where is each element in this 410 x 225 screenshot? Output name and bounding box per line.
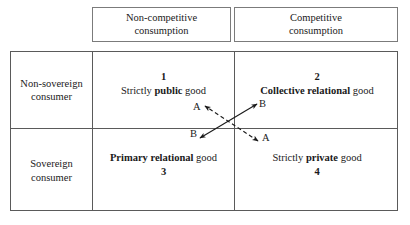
quadrant-3-emphasis: Primary relational [110, 152, 194, 163]
column-header-non-competitive: Non-competitive consumption [92, 7, 231, 42]
arrow-label-a-upper-left: A [193, 102, 201, 113]
row-header-non-sovereign-consumer: Non-sovereign consumer [11, 52, 92, 128]
column-header-competitive-line2: consumption [289, 25, 343, 38]
quadrant-1-suffix: good [182, 85, 206, 96]
arrow-label-a-lower-right: A [262, 133, 270, 144]
quadrant-2-description: Collective relational good [260, 84, 374, 98]
matrix-figure: Non-competitive consumption Competitive … [0, 0, 410, 225]
quadrant-1-emphasis: public [154, 85, 182, 96]
quadrant-3-suffix: good [193, 152, 217, 163]
quadrant-1-description: Strictly public good [121, 84, 206, 98]
matrix-table: Non-sovereign consumer Sovereign consume… [10, 51, 398, 211]
quadrant-4-suffix: good [338, 152, 362, 163]
quadrant-1-cell: 1 Strictly public good [93, 52, 234, 128]
quadrant-1-number: 1 [161, 70, 166, 84]
row-header-non-sovereign-line1: Non-sovereign [20, 77, 82, 90]
quadrant-2-emphasis: Collective relational [260, 85, 350, 96]
column-header-non-competitive-line1: Non-competitive [126, 12, 197, 25]
quadrant-2-number: 2 [314, 70, 319, 84]
quadrant-4-number: 4 [314, 165, 319, 179]
quadrant-2-cell: 2 Collective relational good [235, 52, 399, 128]
quadrant-3-description: Primary relational good [110, 151, 217, 165]
quadrant-4-cell: Strictly private good 4 [235, 129, 399, 212]
quadrant-3-cell: Primary relational good 3 [93, 129, 234, 212]
row-header-sovereign-line1: Sovereign [30, 157, 73, 170]
quadrant-4-emphasis: private [306, 152, 338, 163]
column-header-non-competitive-line2: consumption [134, 25, 188, 38]
row-header-sovereign-consumer: Sovereign consumer [11, 129, 92, 212]
column-header-competitive: Competitive consumption [234, 7, 398, 42]
row-header-non-sovereign-line2: consumer [31, 90, 72, 103]
quadrant-2-suffix: good [350, 85, 374, 96]
quadrant-4-prefix: Strictly [272, 152, 306, 163]
arrow-label-b-lower-left: B [190, 129, 197, 140]
arrow-label-b-upper-right: B [259, 99, 266, 110]
quadrant-4-description: Strictly private good [272, 151, 361, 165]
column-header-competitive-line1: Competitive [290, 12, 342, 25]
quadrant-1-prefix: Strictly [121, 85, 155, 96]
quadrant-3-number: 3 [161, 165, 166, 179]
row-header-sovereign-line2: consumer [31, 171, 72, 184]
